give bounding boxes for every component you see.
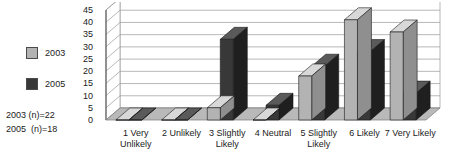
sample-size-note-2003: 2003 (n)=22 [6,111,55,120]
sample-size-note-2005: 2005 (n)=18 [6,125,57,134]
y-axis-tick-label: 10 [83,91,93,100]
chart-legend: 2003 2005 2003 (n)=22 2005 (n)=18 [0,40,96,140]
x-axis-category-label: 7 Very Likely [378,128,442,139]
y-axis-tick-label: 45 [83,6,93,15]
y-axis-tick-label: 5 [88,103,93,112]
legend-item-2003: 2003 [26,47,65,59]
x-axis-labels: 1 Very Unlikely2 Unlikely3 Slightly Like… [96,128,454,166]
y-axis-tick-label: 30 [83,42,93,51]
y-axis-tick-label: 0 [88,116,93,125]
legend-item-2005: 2005 [26,78,65,90]
y-axis-tick-label: 25 [83,54,93,63]
y-axis-tick-label: 40 [83,18,93,27]
y-axis-tick-label: 35 [83,30,93,39]
legend-swatch-2003 [26,47,38,59]
legend-label-2005: 2005 [45,80,65,89]
chart-canvas [96,2,454,132]
legend-label-2003: 2003 [45,49,65,58]
y-axis-tick-label: 20 [83,67,93,76]
plot-area: 051015202530354045 1 Very Unlikely2 Unli… [96,2,454,166]
y-axis-tick-label: 15 [83,79,93,88]
legend-swatch-2005 [26,78,38,90]
chart-figure: 2003 2005 2003 (n)=22 2005 (n)=18 051015… [0,0,454,166]
